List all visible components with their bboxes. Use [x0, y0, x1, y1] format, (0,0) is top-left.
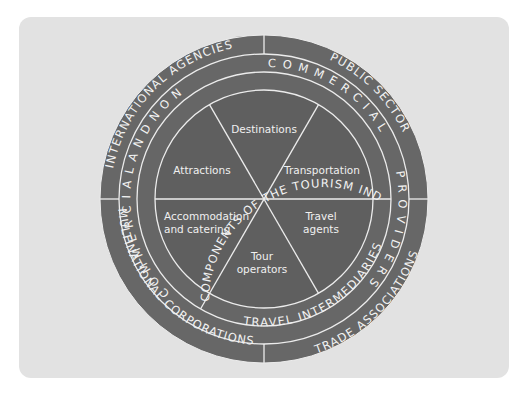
segment-transportation: Transportation	[283, 164, 360, 176]
svg-text:Accommodation: Accommodation	[164, 210, 249, 222]
segment-attractions: Attractions	[173, 164, 230, 176]
svg-text:Tour: Tour	[250, 250, 274, 262]
svg-text:Transportation: Transportation	[283, 164, 360, 176]
svg-text:and catering: and catering	[164, 223, 230, 235]
svg-text:Destinations: Destinations	[231, 123, 297, 135]
svg-text:agents: agents	[303, 223, 339, 235]
svg-text:Attractions: Attractions	[173, 164, 230, 176]
svg-text:Travel: Travel	[304, 210, 336, 222]
label-dash: -	[0, 0, 2, 7]
tourism-industry-diagram: INTERNATIONAL AGENCIES PUBLIC SECTOR MUL…	[0, 0, 529, 395]
segment-travel-agents: Travel agents	[303, 210, 339, 235]
svg-text:operators: operators	[237, 263, 288, 275]
segment-destinations: Destinations	[231, 123, 297, 135]
